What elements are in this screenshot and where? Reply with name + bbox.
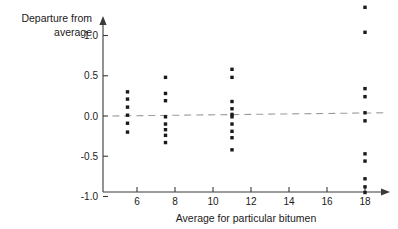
y-axis-ticks: -1.0-0.50.00.51.0 — [81, 30, 108, 202]
data-point — [230, 107, 233, 110]
y-axis-group — [99, 16, 106, 192]
data-point — [230, 122, 233, 125]
data-point — [363, 87, 366, 90]
x-axis-arrow-icon — [381, 188, 390, 195]
y-axis-label-line2: average — [54, 26, 92, 38]
data-point — [230, 148, 233, 151]
data-point — [164, 134, 167, 137]
y-tick-label: -1.0 — [81, 191, 99, 202]
data-point — [230, 115, 233, 118]
data-point — [363, 191, 366, 194]
x-tick-label: 14 — [283, 196, 295, 207]
data-point — [126, 97, 129, 100]
x-axis-ticks: 681012141618 — [134, 187, 371, 207]
data-points-layer — [126, 6, 367, 195]
data-point — [164, 115, 167, 118]
data-point — [363, 185, 366, 188]
data-point — [126, 122, 129, 125]
data-point — [363, 119, 366, 122]
x-tick-label: 6 — [134, 196, 140, 207]
data-point — [126, 90, 129, 93]
zero-departure-dashed-line — [112, 113, 384, 116]
data-point — [363, 177, 366, 180]
data-point — [230, 130, 233, 133]
y-tick-label: 0.0 — [84, 111, 98, 122]
data-point — [230, 68, 233, 71]
scatter-plot-figure: -1.0-0.50.00.51.0 681012141618 Departure… — [0, 0, 398, 229]
x-axis-label: Average for particular bitumen — [176, 212, 317, 224]
y-axis-arrow-icon — [99, 16, 106, 25]
data-point — [363, 31, 366, 34]
data-point — [363, 152, 366, 155]
data-point — [126, 130, 129, 133]
x-tick-label: 12 — [245, 196, 257, 207]
data-point — [230, 100, 233, 103]
data-point — [164, 128, 167, 131]
data-point — [230, 136, 233, 139]
data-point — [363, 6, 366, 9]
data-point — [363, 95, 366, 98]
plot-canvas: -1.0-0.50.00.51.0 681012141618 Departure… — [0, 0, 398, 229]
data-point — [164, 141, 167, 144]
data-point — [164, 99, 167, 102]
y-axis-label-line1: Departure from — [21, 12, 92, 24]
data-point — [126, 105, 129, 108]
data-point — [363, 111, 366, 114]
y-tick-label: 0.5 — [84, 70, 98, 81]
data-point — [230, 76, 233, 79]
x-axis-group — [103, 188, 390, 195]
y-tick-label: -0.5 — [81, 151, 99, 162]
x-tick-label: 10 — [207, 196, 219, 207]
data-point — [164, 122, 167, 125]
data-point — [126, 113, 129, 116]
data-point — [164, 92, 167, 95]
x-tick-label: 18 — [359, 196, 371, 207]
x-tick-label: 8 — [172, 196, 178, 207]
data-point — [363, 159, 366, 162]
x-tick-label: 16 — [321, 196, 333, 207]
data-point — [164, 76, 167, 79]
